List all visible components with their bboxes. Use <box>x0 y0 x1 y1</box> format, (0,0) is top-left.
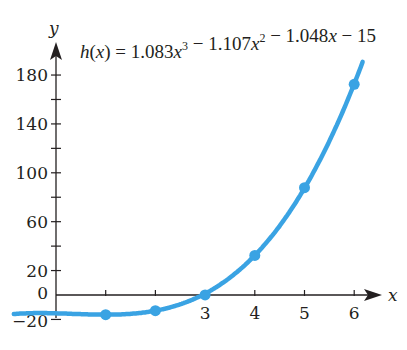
y-tick-label: 0 <box>37 283 48 303</box>
y-tick-label: 60 <box>26 212 48 232</box>
x-axis-label: x <box>388 285 398 305</box>
data-point <box>299 182 310 193</box>
y-axis-label: y <box>48 18 59 38</box>
data-point <box>200 289 211 300</box>
data-points <box>100 79 360 320</box>
y-tick-label: 100 <box>16 163 48 183</box>
data-point <box>150 305 161 316</box>
y-tick-label: 140 <box>16 114 48 134</box>
y-tick-label: 20 <box>26 261 48 281</box>
x-tick-label: 5 <box>299 303 310 323</box>
data-point <box>249 250 260 261</box>
x-tick-label: 4 <box>249 303 260 323</box>
x-tick-label: 6 <box>349 303 360 323</box>
data-point <box>100 309 111 320</box>
curve-h-of-x <box>14 62 363 315</box>
data-point <box>349 79 360 90</box>
x-tick-label: 3 <box>200 303 211 323</box>
polynomial-chart: xy3456−2002060100140180 h(x) = 1.083x3 −… <box>0 0 407 350</box>
y-tick-label: 180 <box>16 65 48 85</box>
axes: xy3456−2002060100140180 <box>12 18 398 331</box>
equation-label: h(x) = 1.083x3 − 1.107x2 − 1.048x − 15 <box>80 25 376 63</box>
